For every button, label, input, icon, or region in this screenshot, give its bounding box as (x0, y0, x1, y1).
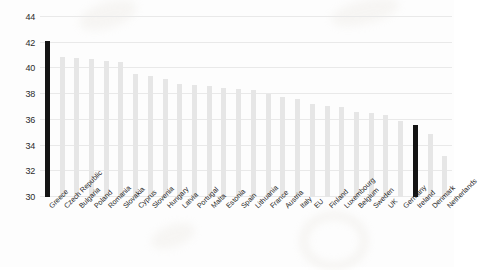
bar-italy (295, 99, 300, 197)
bar-hungary (163, 79, 168, 197)
bar-column (40, 17, 55, 197)
bar-czech-republic (60, 57, 65, 197)
y-tick-label: 36 (25, 115, 35, 125)
bar-column (172, 17, 187, 197)
x-label-column: Romania (99, 199, 114, 263)
x-label-column: Denmark (423, 199, 438, 263)
bar-lithuania (251, 90, 256, 197)
bar-column (55, 17, 70, 197)
bar-column (320, 17, 335, 197)
bar-latvia (177, 84, 182, 197)
bar-column (217, 17, 232, 197)
bar-belgium (354, 112, 359, 197)
y-tick-label: 30 (25, 192, 35, 202)
bar-column (349, 17, 364, 197)
bar-romania (104, 61, 109, 197)
x-label-column: Czech Republic (55, 199, 70, 263)
bar-column (334, 17, 349, 197)
y-tick-label: 38 (25, 89, 35, 99)
x-label-column: Latvia (172, 199, 187, 263)
x-label-column: Finland (320, 199, 335, 263)
x-label-column: Luxembourg (334, 199, 349, 263)
x-label-column: Italy (290, 199, 305, 263)
x-label-column: Slovenia (143, 199, 158, 263)
bar-eu (310, 104, 315, 197)
bar-austria (280, 97, 285, 197)
bar-column (69, 17, 84, 197)
bar-column (246, 17, 261, 197)
bar-column (393, 17, 408, 197)
bar-slovenia (148, 76, 153, 197)
x-label-column: Spain (231, 199, 246, 263)
bar-column (128, 17, 143, 197)
bar-estonia (221, 88, 226, 197)
x-label-column: Hungary (158, 199, 173, 263)
bar-column (437, 17, 452, 197)
bar-column (305, 17, 320, 197)
bar-column (379, 17, 394, 197)
x-label-column: France (261, 199, 276, 263)
y-tick-label: 40 (25, 63, 35, 73)
bar-finland (325, 106, 330, 197)
bar-column (143, 17, 158, 197)
bar-germany (398, 121, 403, 197)
x-label-column: Estonia (217, 199, 232, 263)
bar-malta (207, 86, 212, 197)
y-tick-label: 32 (25, 166, 35, 176)
bar-column (364, 17, 379, 197)
bar-column (158, 17, 173, 197)
x-label-column: EU (305, 199, 320, 263)
x-label-column: Slovakia (114, 199, 129, 263)
x-label-column: Malta (202, 199, 217, 263)
x-label-column: Germany (393, 199, 408, 263)
x-label-column: Greece (40, 199, 55, 263)
y-tick-label: 44 (25, 12, 35, 22)
bar-column (114, 17, 129, 197)
bar-series (40, 17, 452, 197)
x-label-column: Ireland (408, 199, 423, 263)
x-label-column: Belgium (349, 199, 364, 263)
x-label-column: Bulgaria (69, 199, 84, 263)
bar-column (231, 17, 246, 197)
x-label-column: Poland (84, 199, 99, 263)
bar-spain (236, 89, 241, 197)
x-axis-labels: GreeceCzech RepublicBulgariaPolandRomani… (40, 199, 452, 263)
bar-column (202, 17, 217, 197)
bar-uk (383, 115, 388, 197)
x-label-column: Austria (276, 199, 291, 263)
bar-france (266, 94, 271, 197)
bar-column (187, 17, 202, 197)
bar-column (276, 17, 291, 197)
bar-column (261, 17, 276, 197)
y-tick-label: 34 (25, 141, 35, 151)
x-label-column: UK (379, 199, 394, 263)
bar-cyprus (133, 74, 138, 197)
bar-column (408, 17, 423, 197)
bar-column (423, 17, 438, 197)
x-label-column: Lithuania (246, 199, 261, 263)
bar-greece (45, 41, 50, 197)
bar-slovakia (118, 62, 123, 197)
x-label-column: Portugal (187, 199, 202, 263)
x-label-column: Sweden (364, 199, 379, 263)
bar-column (99, 17, 114, 197)
plot-area: 3032343638404244 (40, 17, 452, 197)
bar-column (290, 17, 305, 197)
y-tick-label: 42 (25, 38, 35, 48)
bar-bulgaria (74, 58, 79, 197)
bar-portugal (192, 85, 197, 197)
bar-luxembourg (339, 107, 344, 197)
x-label-column: Cyprus (128, 199, 143, 263)
x-label-column: Netherlands (437, 199, 452, 263)
